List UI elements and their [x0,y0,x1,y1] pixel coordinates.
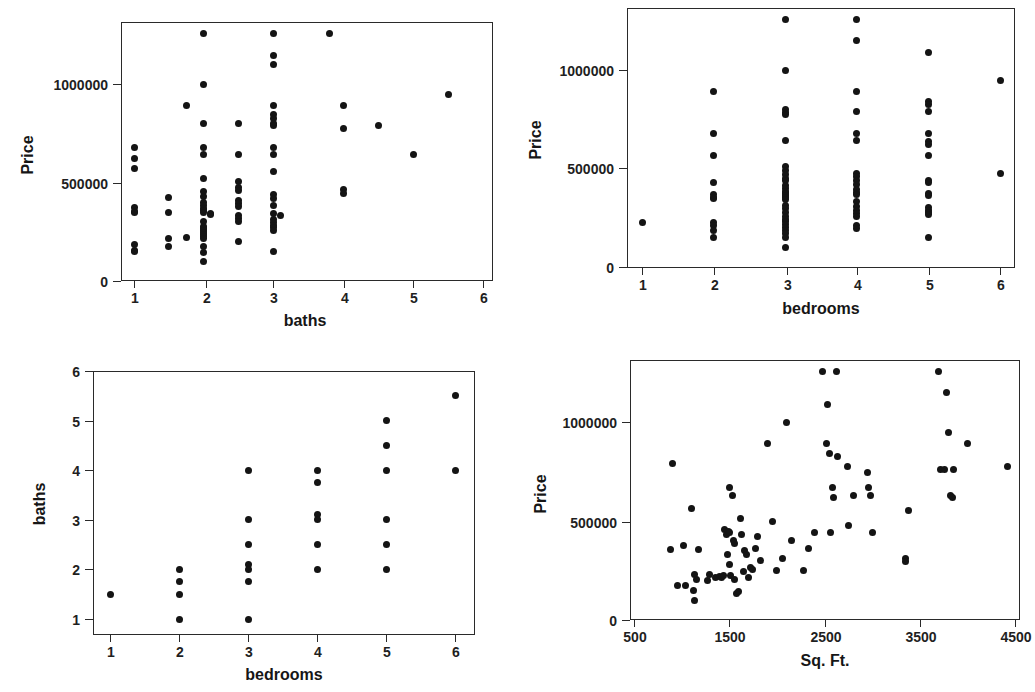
data-point [270,248,277,255]
data-point [270,144,277,151]
data-point [731,540,738,547]
data-point [340,190,347,197]
data-point [925,49,932,56]
data-point [782,67,789,74]
data-point [695,546,702,553]
data-point [850,492,857,499]
data-point [902,558,909,565]
data-point [783,419,790,426]
data-point [726,529,733,536]
data-point [235,120,242,127]
data-point [200,30,207,37]
data-point [383,467,390,474]
data-point [245,616,252,623]
data-point [235,203,242,210]
data-point [200,175,207,182]
data-point [710,234,717,241]
data-point [200,209,207,216]
data-point [452,392,459,399]
data-point [853,130,860,137]
data-point [925,192,932,199]
data-point [853,108,860,115]
data-point [726,484,733,491]
data-point [943,389,950,396]
data-point [176,578,183,585]
data-point [245,467,252,474]
data-point [782,244,789,251]
data-point [819,368,826,375]
data-point [950,466,957,473]
data-point [207,211,214,218]
data-point [235,218,242,225]
data-point [270,52,277,59]
data-point [827,529,834,536]
data-point [925,234,932,241]
data-point [383,566,390,573]
data-point [845,522,852,529]
data-point [131,248,138,255]
data-point [200,249,207,256]
data-point [905,507,912,514]
panel-baths-vs-bedrooms: 6 5 4 3 2 1 1 2 3 4 5 6 bedrooms baths [0,346,515,692]
data-point [200,235,207,242]
data-point [710,88,717,95]
data-point [200,81,207,88]
data-point [844,463,851,470]
points-layer [515,346,1035,692]
data-point [270,168,277,175]
data-point [690,587,697,594]
data-point [314,541,321,548]
data-point [869,529,876,536]
data-point [131,209,138,216]
data-point [165,243,172,250]
data-point [326,30,333,37]
data-point [383,516,390,523]
data-point [200,151,207,158]
data-point [833,368,840,375]
data-point [270,227,277,234]
data-point [383,417,390,424]
data-point [1004,463,1011,470]
data-point [131,144,138,151]
data-point [773,567,780,574]
data-point [864,469,871,476]
data-point [782,137,789,144]
data-point [779,555,786,562]
data-point [737,515,744,522]
data-point [688,505,695,512]
points-layer [515,0,1035,346]
data-point [165,235,172,242]
data-point [270,122,277,129]
data-point [764,440,771,447]
data-point [935,368,942,375]
data-point [131,165,138,172]
data-point [788,537,795,544]
data-point [925,101,932,108]
data-point [769,518,776,525]
data-point [853,137,860,144]
data-point [925,108,932,115]
data-point [270,151,277,158]
data-point [667,546,674,553]
data-point [200,120,207,127]
data-point [830,494,837,501]
data-point [270,102,277,109]
data-point [669,460,676,467]
data-point [340,102,347,109]
data-point [782,111,789,118]
data-point [805,545,812,552]
data-point [270,30,277,37]
data-point [245,566,252,573]
data-point [314,566,321,573]
data-point [682,582,689,589]
data-point [270,195,277,202]
data-point [834,453,841,460]
data-point [314,479,321,486]
data-point [823,440,830,447]
data-point [720,572,727,579]
data-point [757,557,764,564]
data-point [245,578,252,585]
data-point [925,211,932,218]
data-point [743,551,750,558]
data-point [729,492,736,499]
